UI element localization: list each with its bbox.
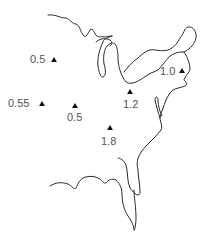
station-value-label: 0.5 (30, 53, 45, 65)
station-value-label: 1.0 (160, 65, 175, 77)
northern-border-coastline (48, 15, 112, 37)
map: 0.50.550.51.21.81.0 (0, 0, 216, 238)
triangle-marker-icon (39, 101, 45, 106)
map-canvas: 0.50.550.51.21.81.0 (0, 0, 216, 238)
triangle-marker-icon (51, 57, 57, 62)
station-value-label: 1.2 (123, 98, 138, 110)
station-value-label: 0.55 (8, 97, 29, 109)
station-marker: 0.5 (30, 53, 57, 65)
chesapeake-inlet-outline (155, 97, 162, 118)
triangle-marker-icon (127, 89, 133, 94)
gulf-coastline (50, 176, 136, 230)
triangle-marker-icon (107, 125, 113, 130)
lake-michigan-outline (98, 27, 196, 83)
station-marker: 1.8 (101, 125, 116, 147)
station-value-label: 1.8 (101, 135, 116, 147)
triangle-marker-icon (72, 103, 78, 108)
station-marker: 0.5 (67, 103, 82, 123)
station-marker: 1.0 (160, 65, 185, 77)
station-marker: 0.55 (8, 97, 45, 109)
station-marker: 1.2 (123, 89, 138, 110)
station-value-label: 0.5 (67, 111, 82, 123)
atlantic-coastline (118, 52, 190, 195)
triangle-marker-icon (179, 68, 185, 73)
